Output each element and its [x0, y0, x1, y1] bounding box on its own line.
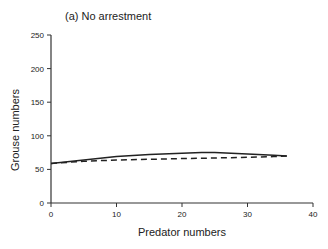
chart-canvas: (a) No arrestment 0501001502002500102030…	[0, 0, 328, 249]
x-tick-label: 40	[309, 210, 318, 219]
y-tick-label: 250	[31, 31, 45, 40]
chart-title: (a) No arrestment	[65, 10, 151, 22]
x-axis-label: Predator numbers	[138, 226, 227, 238]
series-lines	[51, 153, 287, 164]
chart: (a) No arrestment 0501001502002500102030…	[0, 0, 328, 249]
x-tick-label: 20	[178, 210, 187, 219]
x-tick-label: 0	[49, 210, 54, 219]
y-tick-label: 150	[31, 98, 45, 107]
y-tick-label: 100	[31, 132, 45, 141]
y-axis-label: Grouse numbers	[9, 89, 21, 171]
y-tick-label: 200	[31, 65, 45, 74]
x-tick-label: 10	[112, 210, 121, 219]
y-tick-label: 50	[35, 165, 44, 174]
x-tick-label: 30	[243, 210, 252, 219]
y-tick-label: 0	[40, 199, 45, 208]
axes: 050100150200250010203040	[31, 31, 318, 219]
